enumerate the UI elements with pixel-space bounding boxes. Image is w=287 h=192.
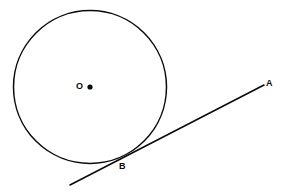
- geometry-diagram: [0, 0, 287, 192]
- center-point-dot: [87, 84, 92, 89]
- geometry-figure-canvas: O A B: [0, 0, 287, 192]
- label-point-a: A: [266, 79, 273, 88]
- label-center-o: O: [76, 82, 83, 91]
- tangent-line-AB: [70, 85, 264, 185]
- label-point-b: B: [119, 162, 126, 171]
